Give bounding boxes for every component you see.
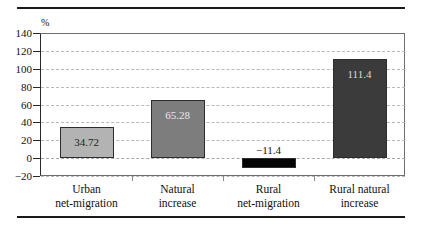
category-label-line1: Rural	[223, 182, 314, 196]
y-tick-label-120: 120	[2, 46, 32, 57]
y-tick-label--20: −20	[2, 171, 32, 182]
category-label: Rural naturalincrease	[314, 182, 405, 210]
category-label: Naturalincrease	[132, 182, 223, 210]
y-tick--20	[33, 176, 40, 177]
y-axis-labels: 140120100806040200−20	[0, 0, 32, 232]
x-tick	[223, 176, 224, 181]
bar-series: 34.7265.28−11.4111.4	[41, 33, 405, 176]
y-tick-label-40: 40	[2, 117, 32, 128]
y-tick-label-20: 20	[2, 135, 32, 146]
category-label-line2: increase	[314, 196, 405, 210]
category-label-line1: Rural natural	[314, 182, 405, 196]
category-label-line1: Urban	[41, 182, 132, 196]
y-tick-label-60: 60	[2, 100, 32, 111]
top-rule	[17, 7, 405, 9]
y-tick-60	[33, 105, 40, 106]
y-tick-40	[33, 122, 40, 123]
y-tick-100	[33, 69, 40, 70]
bar-value-label: −11.4	[227, 145, 311, 156]
category-label: Urbannet-migration	[41, 182, 132, 210]
x-tick	[314, 176, 315, 181]
y-tick-label-80: 80	[2, 82, 32, 93]
x-axis-category-labels: Urbannet-migrationNaturalincreaseRuralne…	[41, 182, 405, 214]
bottom-rule	[17, 216, 405, 218]
y-tick-label-100: 100	[2, 64, 32, 75]
y-tick-120	[33, 51, 40, 52]
category-label-line2: increase	[132, 196, 223, 210]
y-tick-20	[33, 140, 40, 141]
category-label-line1: Natural	[132, 182, 223, 196]
bar-value-label: 65.28	[136, 110, 220, 121]
y-tick-80	[33, 87, 40, 88]
x-tick	[132, 176, 133, 181]
category-label-line2: net-migration	[41, 196, 132, 210]
y-tick-0	[33, 158, 40, 159]
y-axis-unit-label: %	[41, 18, 49, 28]
y-tick-140	[33, 33, 40, 34]
figure: % 140120100806040200−20 34.7265.28−11.41…	[0, 0, 423, 232]
bar	[242, 158, 296, 168]
bar-value-label: 111.4	[318, 69, 402, 80]
y-tick-label-140: 140	[2, 28, 32, 39]
bar-value-label: 34.72	[45, 137, 129, 148]
category-label: Ruralnet-migration	[223, 182, 314, 210]
category-label-line2: net-migration	[223, 196, 314, 210]
y-tick-label-0: 0	[2, 153, 32, 164]
